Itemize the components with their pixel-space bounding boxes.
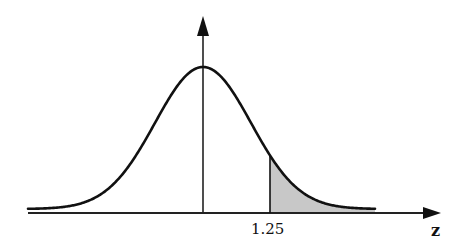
vertical-axis-arrowhead-icon	[197, 16, 209, 36]
z-axis-arrowhead-icon	[423, 207, 441, 219]
z-value-label: 1.25	[251, 220, 284, 238]
bell-curve	[28, 67, 375, 209]
z-axis-label: z	[431, 221, 440, 240]
normal-distribution-figure: 1.25 z	[0, 0, 459, 251]
normal-curve-graphic	[0, 0, 459, 251]
shaded-tail-area	[270, 155, 375, 213]
